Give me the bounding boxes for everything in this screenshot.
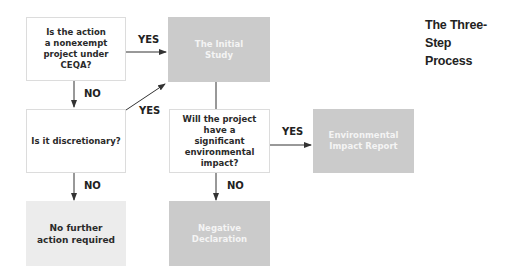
result-no-further-action: No further action required	[26, 201, 126, 266]
label-nonexempt-no: NO	[84, 88, 101, 99]
label-significant-no: NO	[227, 180, 244, 191]
label-discretionary-no: NO	[84, 180, 101, 191]
label-discretionary-yes: YES	[139, 105, 160, 116]
question-discretionary: Is it discretionary?	[26, 109, 126, 173]
result-negative-declaration: Negative Declaration	[169, 201, 270, 266]
label-nonexempt-yes: YES	[138, 34, 159, 45]
label-significant-yes: YES	[282, 126, 303, 137]
question-significant-impact: Will the project have a significant envi…	[169, 109, 270, 173]
question-nonexempt: Is the action a nonexempt project under …	[26, 17, 126, 81]
diagram-title: The Three-Step Process	[425, 16, 511, 70]
result-initial-study: The Initial Study	[168, 17, 270, 82]
result-eir: Environmental Impact Report	[313, 109, 414, 173]
